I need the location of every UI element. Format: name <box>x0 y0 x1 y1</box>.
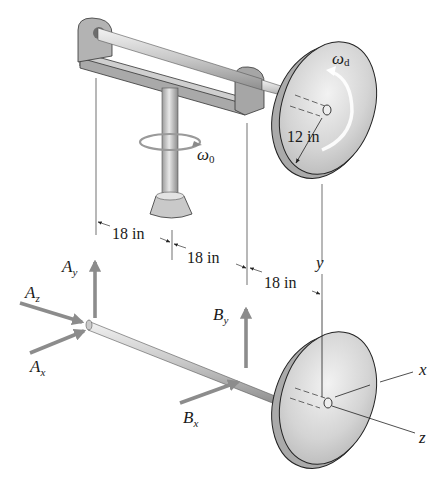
force-arrows <box>20 262 246 403</box>
free-body-diagram: y x z Ay Az Ax By Bx <box>20 253 427 482</box>
support-frame <box>78 18 300 115</box>
force-Az-label: Az <box>24 283 40 304</box>
force-By-label: By <box>213 305 228 326</box>
axis-x-label: x <box>418 360 427 379</box>
upper-assembly: ω0 ωd 12 in <box>78 18 393 218</box>
force-Az-arrow <box>20 303 82 322</box>
force-Ay-label: Ay <box>61 257 77 278</box>
axis-z-label: z <box>418 428 426 447</box>
force-Ax-arrow <box>30 331 84 353</box>
diagram-canvas: ω0 ωd 12 in 18 in 18 in 18 <box>0 0 445 490</box>
upper-disk <box>255 29 392 191</box>
lower-disk <box>255 319 392 481</box>
dimension-label-1: 18 in <box>112 225 144 242</box>
force-Bx-arrow <box>180 382 238 403</box>
radius-label: 12 in <box>287 128 319 145</box>
dimension-label-2: 18 in <box>187 249 219 266</box>
dimension-label-3: 18 in <box>264 274 296 291</box>
vertical-post <box>150 88 192 218</box>
force-Ax-label: Ax <box>29 357 45 378</box>
axis-y-label: y <box>314 253 324 272</box>
force-Bx-label: Bx <box>183 408 198 429</box>
omega0-label: ω0 <box>197 145 215 165</box>
